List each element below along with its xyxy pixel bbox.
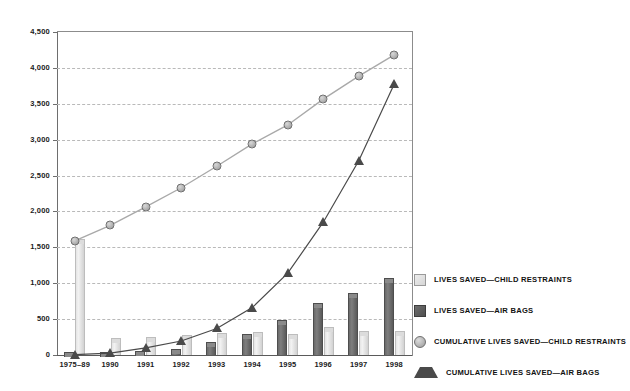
plot-area <box>57 32 412 355</box>
chart-container: 05001,0001,5002,0002,5003,0003,5004,0004… <box>0 0 630 391</box>
bar-air-bags <box>313 305 323 355</box>
bar-air-bags <box>242 336 252 355</box>
data-point-cumulative-air-bags <box>283 268 293 277</box>
data-point-cumulative-air-bags <box>176 336 186 345</box>
legend-item-cumulative-child-restraints[interactable]: CUMULATIVE LIVES SAVED—CHILD RESTRAINTS <box>414 326 628 357</box>
y-axis-tick-label: 500 <box>8 314 50 323</box>
bar-child-restraints <box>359 333 369 355</box>
gridline <box>57 283 412 284</box>
bar-air-bags <box>135 353 145 356</box>
gridline <box>57 104 412 105</box>
bar-child-restraints <box>395 333 405 355</box>
bar-top-cap <box>146 337 156 342</box>
data-point-cumulative-air-bags <box>212 323 222 332</box>
data-point-cumulative-child-restraints <box>70 236 79 245</box>
y-axis-tick-label: 1,000 <box>8 278 50 287</box>
bar-top-cap <box>277 320 287 325</box>
bar-top-cap <box>359 331 369 336</box>
line-cumulative-air-bags <box>75 84 395 355</box>
data-point-cumulative-child-restraints <box>212 162 221 171</box>
bar-child-restraints <box>288 336 298 355</box>
bar-top-cap <box>242 334 252 339</box>
data-point-cumulative-air-bags <box>389 79 399 88</box>
gridline <box>57 176 412 177</box>
legend-item-child-restraints[interactable]: LIVES SAVED—CHILD RESTRAINTS <box>414 264 628 295</box>
bar-top-cap <box>395 331 405 336</box>
data-point-cumulative-air-bags <box>354 156 364 165</box>
bar-child-restraints <box>75 241 85 355</box>
bar-child-restraints <box>253 334 263 355</box>
chart-legend: LIVES SAVED—CHILD RESTRAINTS LIVES SAVED… <box>414 264 628 388</box>
bar-top-cap <box>171 349 181 354</box>
y-axis-tick-label: 2,500 <box>8 171 50 180</box>
y-axis-tick-label: 3,500 <box>8 99 50 108</box>
bar-air-bags <box>206 344 216 355</box>
plot-border-right <box>412 31 413 356</box>
legend-marker-cumulative-child-restraints-icon <box>414 336 426 348</box>
y-axis-tick-label: 3,000 <box>8 135 50 144</box>
bar-top-cap <box>111 338 121 343</box>
legend-item-air-bags[interactable]: LIVES SAVED—AIR BAGS <box>414 295 628 326</box>
legend-swatch-air-bags-icon <box>414 305 426 317</box>
bar-air-bags <box>171 351 181 355</box>
y-axis-tick-label: 4,000 <box>8 63 50 72</box>
bar-child-restraints <box>217 335 227 355</box>
bar-top-cap <box>217 333 227 338</box>
bar-top-cap <box>253 332 263 337</box>
legend-label-cumulative-child-restraints: CUMULATIVE LIVES SAVED—CHILD RESTRAINTS <box>434 337 626 346</box>
data-point-cumulative-child-restraints <box>283 120 292 129</box>
bar-top-cap <box>384 278 394 283</box>
gridline <box>57 68 412 69</box>
bar-top-cap <box>313 303 323 308</box>
y-axis-tick-label: 0 <box>8 350 50 359</box>
data-point-cumulative-air-bags <box>318 217 328 226</box>
line-cumulative-child-restraints <box>75 55 395 241</box>
data-point-cumulative-child-restraints <box>319 95 328 104</box>
legend-label-child-restraints: LIVES SAVED—CHILD RESTRAINTS <box>434 275 572 284</box>
bar-top-cap <box>348 293 358 298</box>
bar-top-cap <box>324 327 334 332</box>
data-point-cumulative-child-restraints <box>354 72 363 81</box>
bar-air-bags <box>384 280 394 355</box>
data-point-cumulative-air-bags <box>141 343 151 352</box>
gridline <box>57 211 412 212</box>
data-point-cumulative-air-bags <box>105 348 115 357</box>
data-point-cumulative-child-restraints <box>390 50 399 59</box>
gridline <box>57 247 412 248</box>
data-point-cumulative-child-restraints <box>177 183 186 192</box>
gridline <box>57 319 412 320</box>
data-point-cumulative-child-restraints <box>106 221 115 230</box>
bar-top-cap <box>206 342 216 347</box>
legend-label-air-bags: LIVES SAVED—AIR BAGS <box>434 306 533 315</box>
legend-item-cumulative-air-bags[interactable]: CUMULATIVE LIVES SAVED—AIR BAGS <box>414 357 628 388</box>
data-point-cumulative-air-bags <box>70 350 80 359</box>
bar-child-restraints <box>324 329 334 355</box>
legend-swatch-child-restraints-icon <box>414 274 426 286</box>
y-axis-tick-label: 2,000 <box>8 206 50 215</box>
bar-top-cap <box>288 334 298 339</box>
bar-air-bags <box>277 322 287 355</box>
y-axis-tick-label: 1,500 <box>8 242 50 251</box>
legend-marker-cumulative-air-bags-icon <box>414 367 438 378</box>
y-axis-tick-label: 4,500 <box>8 27 50 36</box>
bar-air-bags <box>348 295 358 355</box>
legend-label-cumulative-air-bags: CUMULATIVE LIVES SAVED—AIR BAGS <box>446 368 599 377</box>
gridline <box>57 140 412 141</box>
data-point-cumulative-child-restraints <box>141 202 150 211</box>
data-point-cumulative-air-bags <box>247 303 257 312</box>
data-point-cumulative-child-restraints <box>248 139 257 148</box>
